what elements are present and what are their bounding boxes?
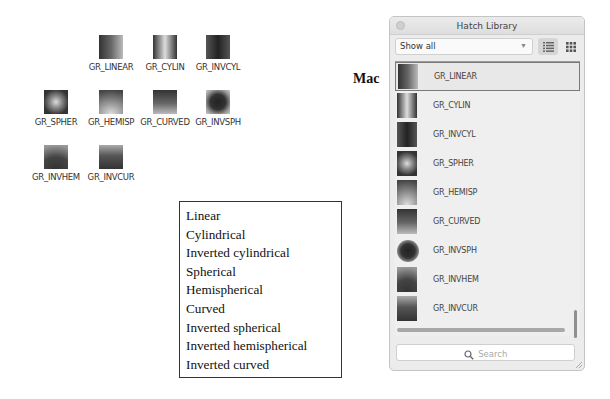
hatch-name: GR_INVCUR (433, 304, 478, 313)
palette-title: Hatch Library (390, 17, 584, 35)
hatch-name: GR_CURVED (433, 217, 480, 226)
description-item: Linear (186, 207, 335, 226)
gradient-description-list: Linear Cylindrical Inverted cylindrical … (179, 201, 342, 378)
inverted-hemispherical-gradient-swatch (44, 145, 68, 169)
description-item: Inverted hemispherical (186, 337, 335, 356)
hatch-name: GR_INVHEM (433, 275, 479, 284)
hatch-list[interactable]: GR_LINEAR GR_CYLIN GR_INVCYL GR_SPHER GR… (395, 61, 580, 336)
hatch-list-item-gr-invsph[interactable]: GR_INVSPH (395, 236, 580, 265)
list-icon (543, 42, 554, 52)
vertical-scrollbar[interactable] (574, 310, 577, 338)
grid-view-button[interactable] (561, 38, 581, 55)
palette-toolbar: Show all ▼ (390, 35, 584, 59)
hatch-item-gr-invsph[interactable]: GR_INVSPH (183, 90, 253, 127)
cylindrical-gradient-swatch (153, 35, 177, 59)
hatch-name: GR_HEMISP (433, 188, 477, 197)
hatch-list-item-gr-cylin[interactable]: GR_CYLIN (395, 91, 580, 120)
inverted-spherical-gradient-swatch (397, 240, 419, 262)
list-view-button[interactable] (538, 38, 558, 55)
hatch-list-item-gr-linear[interactable]: GR_LINEAR (395, 62, 580, 91)
inverted-cylindrical-gradient-swatch (206, 35, 230, 59)
linear-gradient-swatch (398, 64, 418, 89)
hatch-label: GR_INVCUR (76, 172, 146, 182)
search-field[interactable]: Search (396, 344, 575, 361)
inverted-cylindrical-gradient-swatch (397, 122, 417, 147)
description-item: Cylindrical (186, 226, 335, 245)
hatch-name: GR_SPHER (433, 159, 474, 168)
filter-dropdown[interactable]: Show all ▼ (395, 38, 533, 55)
linear-gradient-swatch (99, 35, 123, 59)
description-item: Inverted cylindrical (186, 244, 335, 263)
description-item: Inverted curved (186, 356, 335, 375)
hatch-label: GR_INVCYL (183, 62, 253, 72)
horizontal-scrollbar[interactable] (397, 328, 565, 332)
description-item: Spherical (186, 263, 335, 282)
close-button[interactable] (396, 21, 405, 30)
windows-hatch-grid: GR_LINEAR GR_CYLIN GR_INVCYL GR_SPHER GR… (0, 0, 270, 190)
mac-label: Mac (353, 71, 379, 87)
hatch-list-item-gr-invcyl[interactable]: GR_INVCYL (395, 120, 580, 149)
hatch-item-gr-invcur[interactable]: GR_INVCUR (76, 145, 146, 182)
hemispherical-gradient-swatch (397, 180, 417, 205)
hatch-list-item-gr-invhem[interactable]: GR_INVHEM (395, 265, 580, 294)
hatch-name: GR_INVCYL (433, 130, 476, 139)
curved-gradient-swatch (397, 209, 417, 234)
hatch-name: GR_INVSPH (433, 246, 477, 255)
hatch-label: GR_INVSPH (183, 117, 253, 127)
resize-grip-icon[interactable] (575, 361, 583, 369)
hatch-list-item-gr-curved[interactable]: GR_CURVED (395, 207, 580, 236)
inverted-curved-gradient-swatch (99, 145, 123, 169)
curved-gradient-swatch (153, 90, 177, 114)
description-item: Hemispherical (186, 281, 335, 300)
inverted-curved-gradient-swatch (397, 296, 417, 321)
grid-icon (566, 42, 576, 52)
spherical-gradient-swatch (44, 90, 68, 114)
search-icon (464, 350, 474, 360)
hatch-list-item-gr-hemisp[interactable]: GR_HEMISP (395, 178, 580, 207)
hatch-name: GR_CYLIN (433, 101, 470, 110)
chevron-down-icon: ▼ (520, 42, 527, 49)
description-item: Curved (186, 300, 335, 319)
inverted-hemispherical-gradient-swatch (397, 267, 417, 292)
description-item: Inverted spherical (186, 319, 335, 338)
search-placeholder: Search (478, 349, 507, 359)
hatch-list-item-gr-spher[interactable]: GR_SPHER (395, 149, 580, 178)
spherical-gradient-swatch (397, 151, 417, 176)
hatch-list-item-gr-invcur[interactable]: GR_INVCUR (395, 294, 580, 323)
palette-titlebar[interactable]: Hatch Library (390, 17, 584, 35)
filter-value: Show all (400, 41, 436, 51)
hemispherical-gradient-swatch (99, 90, 123, 114)
cylindrical-gradient-swatch (397, 93, 417, 118)
hatch-library-palette: Hatch Library Show all ▼ (389, 16, 585, 371)
inverted-spherical-gradient-swatch (206, 90, 230, 114)
hatch-name: GR_LINEAR (434, 72, 477, 81)
hatch-item-gr-invcyl[interactable]: GR_INVCYL (183, 35, 253, 72)
